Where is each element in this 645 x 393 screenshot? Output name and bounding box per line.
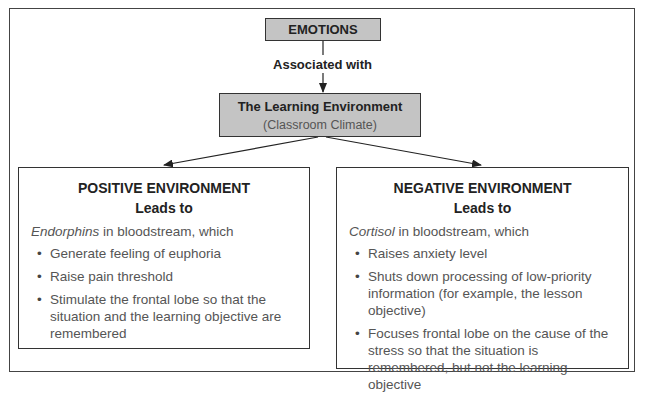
- associated-with-label: Associated with: [0, 57, 645, 72]
- list-item: Generate feeling of euphoria: [37, 245, 299, 262]
- list-item: Raises anxiety level: [355, 245, 618, 262]
- learning-environment-subtitle: (Classroom Climate): [220, 118, 420, 132]
- negative-title: NEGATIVE ENVIRONMENT: [337, 180, 628, 196]
- list-item: Shuts down processing of low-priority in…: [355, 268, 618, 319]
- emotions-label: EMOTIONS: [288, 22, 357, 37]
- negative-intro: Cortisol in bloodstream, which: [349, 224, 628, 239]
- negative-subtitle: Leads to: [337, 200, 628, 216]
- positive-title: POSITIVE ENVIRONMENT: [19, 180, 309, 196]
- list-item: Focuses frontal lobe on the cause of the…: [355, 325, 618, 393]
- negative-list: Raises anxiety level Shuts down processi…: [337, 245, 628, 393]
- positive-intro: Endorphins in bloodstream, which: [31, 224, 309, 239]
- list-item: Stimulate the frontal lobe so that the s…: [37, 291, 299, 342]
- learning-environment-title: The Learning Environment: [220, 99, 420, 114]
- negative-environment-box: NEGATIVE ENVIRONMENT Leads to Cortisol i…: [336, 167, 629, 369]
- learning-environment-node: The Learning Environment (Classroom Clim…: [219, 93, 421, 137]
- positive-environment-box: POSITIVE ENVIRONMENT Leads to Endorphins…: [18, 167, 310, 349]
- positive-subtitle: Leads to: [19, 200, 309, 216]
- emotions-node: EMOTIONS: [265, 18, 381, 41]
- positive-list: Generate feeling of euphoria Raise pain …: [19, 245, 309, 342]
- list-item: Raise pain threshold: [37, 268, 299, 285]
